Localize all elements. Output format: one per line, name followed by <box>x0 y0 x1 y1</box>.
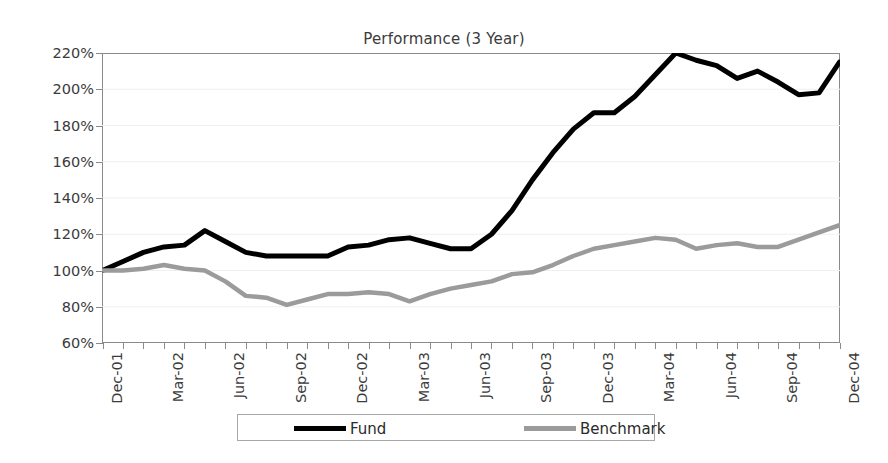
legend-label-benchmark: Benchmark <box>580 420 665 438</box>
x-axis-tick-mark <box>287 343 288 349</box>
y-axis-tick-label: 120% <box>20 226 94 242</box>
y-axis-tick-mark <box>96 198 103 199</box>
x-axis-tick-label: Jun-02 <box>231 352 247 398</box>
x-axis-tick-label: Sep-03 <box>538 352 554 403</box>
y-axis-tick-label: 100% <box>20 263 94 279</box>
x-axis-tick-mark <box>717 343 718 349</box>
performance-chart: Performance (3 Year) 220%200%180%160%140… <box>0 0 888 463</box>
x-axis-tick-mark <box>737 343 738 349</box>
y-axis-tick-mark <box>96 126 103 127</box>
x-axis-tick-mark <box>430 343 431 349</box>
x-axis-tick-mark <box>369 343 370 349</box>
chart-title: Performance (3 Year) <box>0 30 888 48</box>
y-axis-tick-label: 60% <box>20 335 94 351</box>
x-axis-tick-mark <box>655 343 656 349</box>
x-axis-tick-mark <box>512 343 513 349</box>
x-axis-tick-mark <box>225 343 226 349</box>
y-axis-tick-label: 80% <box>20 299 94 315</box>
x-axis-tick-mark <box>184 343 185 349</box>
x-axis-tick-label: Dec-04 <box>846 352 862 404</box>
legend-label-fund: Fund <box>350 420 386 438</box>
x-axis-tick-label: Mar-02 <box>170 352 186 402</box>
x-axis-tick-mark <box>205 343 206 349</box>
x-axis-tick-mark <box>799 343 800 349</box>
x-axis-tick-label: Mar-04 <box>661 352 677 402</box>
x-axis-tick-mark <box>389 343 390 349</box>
x-axis-tick-mark <box>676 343 677 349</box>
legend-entry-benchmark: Benchmark <box>524 415 665 442</box>
y-axis-tick-mark <box>96 307 103 308</box>
y-axis-tick-label: 220% <box>20 45 94 61</box>
x-axis-tick-label: Dec-03 <box>600 352 616 404</box>
x-axis-tick-mark <box>840 343 841 349</box>
x-axis-tick-label: Dec-01 <box>109 352 125 404</box>
plot-lines <box>102 53 840 343</box>
x-axis-tick-mark <box>635 343 636 349</box>
x-axis-tick-mark <box>123 343 124 349</box>
x-axis-tick-mark <box>328 343 329 349</box>
x-axis-tick-mark <box>532 343 533 349</box>
x-axis-tick-mark <box>696 343 697 349</box>
x-axis-tick-mark <box>471 343 472 349</box>
chart-legend: Fund Benchmark <box>237 414 655 441</box>
x-axis-tick-mark <box>778 343 779 349</box>
x-axis-tick-label: Mar-03 <box>416 352 432 402</box>
y-axis-tick-mark <box>96 162 103 163</box>
x-axis-tick-label: Dec-02 <box>354 352 370 404</box>
x-axis-tick-label: Sep-04 <box>784 352 800 403</box>
x-axis-tick-mark <box>164 343 165 349</box>
x-axis-tick-mark <box>266 343 267 349</box>
y-axis-tick-label: 140% <box>20 190 94 206</box>
y-axis-tick-label: 160% <box>20 154 94 170</box>
x-axis-tick-label: Sep-02 <box>293 352 309 403</box>
x-axis-tick-mark <box>573 343 574 349</box>
x-axis-tick-mark <box>614 343 615 349</box>
y-axis-tick-mark <box>96 89 103 90</box>
x-axis-tick-mark <box>348 343 349 349</box>
x-axis-tick-mark <box>143 343 144 349</box>
x-axis-tick-mark <box>246 343 247 349</box>
x-axis-tick-mark <box>491 343 492 349</box>
x-axis-tick-mark <box>410 343 411 349</box>
y-axis-tick-mark <box>96 271 103 272</box>
legend-swatch-benchmark-icon <box>524 426 576 431</box>
x-axis-tick-mark <box>758 343 759 349</box>
x-axis-tick-mark <box>819 343 820 349</box>
x-axis-tick-label: Jun-04 <box>723 352 739 398</box>
y-axis: 220%200%180%160%140%120%100%80%60% <box>8 53 94 343</box>
y-axis-tick-mark <box>96 53 103 54</box>
legend-entry-fund: Fund <box>294 415 386 442</box>
x-axis-tick-mark <box>451 343 452 349</box>
legend-swatch-fund-icon <box>294 426 346 431</box>
x-axis-tick-mark <box>307 343 308 349</box>
y-axis-tick-mark <box>96 343 103 344</box>
x-axis-tick-mark <box>594 343 595 349</box>
y-axis-tick-label: 200% <box>20 81 94 97</box>
x-axis-tick-mark <box>553 343 554 349</box>
y-axis-tick-label: 180% <box>20 118 94 134</box>
x-axis-tick-label: Jun-03 <box>477 352 493 398</box>
y-axis-tick-mark <box>96 234 103 235</box>
